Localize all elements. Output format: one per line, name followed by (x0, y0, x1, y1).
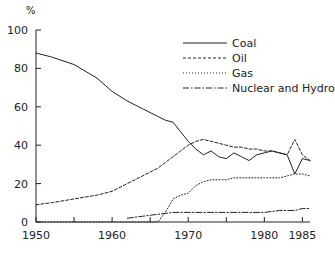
x-tick-label: 1985 (282, 230, 322, 241)
series-line-coal (36, 53, 310, 174)
x-tick-label: 1970 (168, 230, 208, 241)
y-tick-label: 40 (2, 140, 28, 151)
y-tick-label: 0 (2, 217, 28, 228)
data-series-group (36, 53, 310, 222)
x-tick-label: 1960 (92, 230, 132, 241)
legend-line-samples (183, 43, 227, 88)
y-tick-label: 80 (2, 63, 28, 74)
series-line-nuclear-and-hydro (127, 209, 310, 219)
legend-label-gas: Gas (232, 68, 253, 79)
series-line-oil (36, 139, 310, 204)
axis-lines (36, 30, 310, 222)
x-axis-ticks (36, 217, 302, 222)
y-tick-label: 60 (2, 102, 28, 113)
y-tick-label: 20 (2, 179, 28, 190)
y-axis-ticks (36, 30, 41, 222)
legend-label-nuclear-and-hydro: Nuclear and Hydro (232, 83, 335, 94)
x-tick-label: 1980 (244, 230, 284, 241)
legend-label-coal: Coal (232, 38, 256, 49)
legend-label-oil: Oil (232, 53, 247, 64)
y-tick-label: 100 (2, 25, 28, 36)
x-tick-label: 1950 (16, 230, 56, 241)
